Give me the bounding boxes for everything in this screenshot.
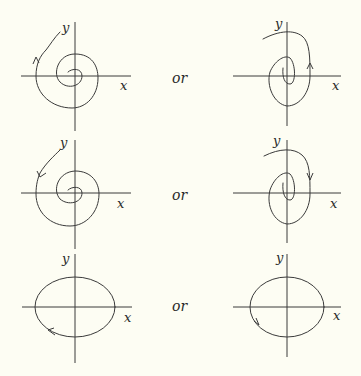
x-axis-label: x	[332, 78, 340, 93]
row2-right-phase-portrait: y x	[233, 133, 341, 243]
y-axis-label: y	[272, 133, 281, 148]
or-separator: or	[172, 70, 188, 86]
x-axis-label: x	[117, 196, 125, 211]
x-axis-label: x	[333, 308, 341, 323]
y-axis-label: y	[59, 135, 68, 150]
or-separator: or	[172, 298, 188, 314]
row2-left-phase-portrait: y x	[21, 135, 131, 249]
row3-right-phase-portrait: y x	[233, 250, 341, 357]
x-axis-label: x	[120, 78, 128, 93]
row1-left-phase-portrait: y x	[21, 20, 131, 131]
row1-right-phase-portrait: y x	[233, 16, 341, 126]
y-axis-label: y	[274, 16, 283, 31]
spiral-trajectory	[36, 32, 98, 108]
x-axis-label: x	[124, 310, 132, 325]
y-axis-label: y	[61, 20, 70, 35]
row3-left-phase-portrait: y x	[22, 251, 132, 363]
y-axis-label: y	[275, 250, 284, 265]
x-axis-label: x	[330, 196, 338, 211]
y-axis-label: y	[61, 251, 70, 266]
or-separator: or	[172, 187, 188, 203]
spiral-trajectory	[36, 150, 99, 226]
phase-portrait-figure: y x or y x y x or y x y x or	[0, 0, 361, 376]
